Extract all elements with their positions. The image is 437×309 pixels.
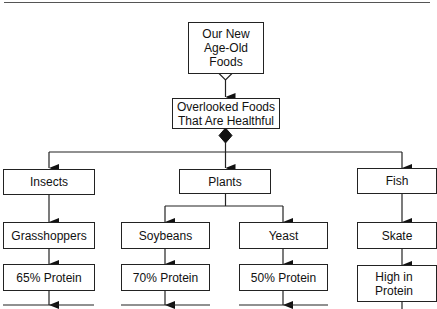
item-label: Soybeans <box>139 229 192 243</box>
item-grasshoppers: Grasshoppers <box>3 222 95 249</box>
filled-diamond-icon <box>219 128 232 143</box>
detail-grasshoppers: 65% Protein <box>3 264 95 291</box>
category-label: Plants <box>208 175 241 189</box>
category-insects: Insects <box>3 169 95 195</box>
detail-skate: High in Protein <box>357 265 437 302</box>
item-label: Skate <box>382 229 413 243</box>
category-label: Fish <box>386 174 409 188</box>
detail-label: 70% Protein <box>133 271 198 285</box>
category-fish: Fish <box>357 168 437 194</box>
detail-label: High in Protein <box>368 270 420 298</box>
root-node: Our New Age-Old Foods <box>188 22 264 74</box>
item-label: Yeast <box>269 229 299 243</box>
detail-soybeans: 70% Protein <box>121 264 210 291</box>
item-yeast: Yeast <box>239 222 328 249</box>
item-label: Grasshoppers <box>11 229 86 243</box>
item-soybeans: Soybeans <box>121 222 210 249</box>
level1-node-label: Overlooked Foods That Are Healthful <box>173 100 279 128</box>
category-plants: Plants <box>179 169 271 194</box>
category-label: Insects <box>30 175 68 189</box>
level1-node: Overlooked Foods That Are Healthful <box>172 98 280 129</box>
item-skate: Skate <box>357 222 437 249</box>
root-node-label: Our New Age-Old Foods <box>193 27 259 69</box>
detail-label: 50% Protein <box>251 271 316 285</box>
detail-label: 65% Protein <box>16 271 81 285</box>
detail-yeast: 50% Protein <box>239 264 328 291</box>
